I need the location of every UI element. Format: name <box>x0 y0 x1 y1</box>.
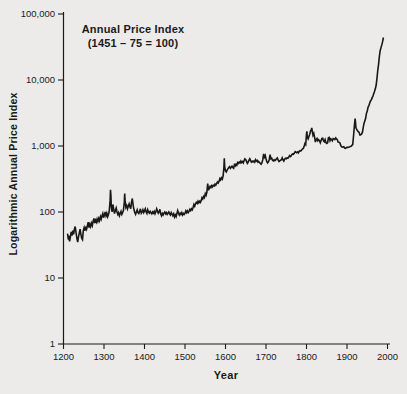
axes <box>64 12 391 344</box>
price-index-series-line <box>68 38 384 243</box>
x-tick-label: 1400 <box>134 351 155 362</box>
y-tick-label: 10 <box>44 272 55 283</box>
y-tick-label: 1 <box>50 338 55 349</box>
y-tick-label: 10,000 <box>26 74 55 85</box>
x-tick-label: 1700 <box>255 351 276 362</box>
chart-page: 1101001,00010,000100,0001200130014001500… <box>0 0 407 394</box>
price-index-line-chart: 1101001,00010,000100,0001200130014001500… <box>0 0 407 394</box>
chart-title: Annual Price Index <box>82 22 185 36</box>
x-tick-label: 1900 <box>336 351 357 362</box>
y-axis-title: Logarithmic Annual Price Index <box>7 92 19 255</box>
x-tick-label: 1800 <box>296 351 317 362</box>
chart-subtitle: (1451 – 75 = 100) <box>82 36 185 50</box>
y-tick-label: 100,000 <box>21 8 55 19</box>
y-tick-label: 1,000 <box>31 140 55 151</box>
x-tick-label: 1600 <box>215 351 236 362</box>
x-tick-label: 1300 <box>93 351 114 362</box>
y-tick-label: 100 <box>39 206 55 217</box>
x-tick-label: 1200 <box>53 351 74 362</box>
chart-annotation: Annual Price Index (1451 – 75 = 100) <box>82 22 185 50</box>
x-axis-title: Year <box>214 369 238 381</box>
x-tick-label: 2000 <box>377 351 398 362</box>
x-tick-label: 1500 <box>174 351 195 362</box>
